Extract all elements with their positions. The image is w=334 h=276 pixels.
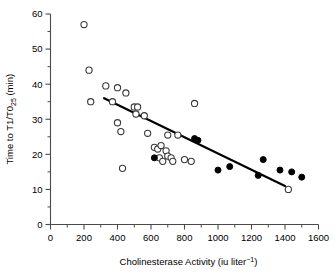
data-point-filled bbox=[215, 167, 221, 173]
x-axis-title: Cholinesterase Activity (iu liter−1) bbox=[120, 256, 258, 267]
data-point-open bbox=[188, 158, 194, 164]
data-point-open bbox=[145, 130, 151, 136]
data-point-open bbox=[165, 132, 171, 138]
data-point-open bbox=[119, 165, 125, 171]
data-point-open bbox=[181, 156, 187, 162]
x-tick-label: 1400 bbox=[274, 232, 295, 243]
data-point-filled bbox=[151, 155, 157, 161]
data-point-open bbox=[114, 85, 120, 91]
y-tick-label: 60 bbox=[32, 8, 43, 19]
y-axis-title: Time to T1/T025 (min) bbox=[4, 74, 17, 165]
scatter-plot: 0200400600800100012001400160001020304050… bbox=[0, 0, 334, 276]
data-point-open bbox=[109, 99, 115, 105]
data-point-open bbox=[285, 186, 291, 192]
data-point-open bbox=[133, 111, 139, 117]
data-point-open bbox=[86, 67, 92, 73]
data-point-open bbox=[81, 21, 87, 27]
data-point-open bbox=[160, 158, 166, 164]
figure-container: 0200400600800100012001400160001020304050… bbox=[0, 0, 334, 276]
x-tick-label: 800 bbox=[177, 232, 193, 243]
x-tick-label: 1600 bbox=[308, 232, 329, 243]
y-tick-label: 20 bbox=[32, 149, 43, 160]
data-point-filled bbox=[227, 164, 233, 170]
data-point-open bbox=[158, 142, 164, 148]
data-point-open bbox=[141, 113, 147, 119]
data-point-open bbox=[88, 99, 94, 105]
x-tick-label: 1000 bbox=[207, 232, 228, 243]
data-point-open bbox=[118, 128, 124, 134]
data-point-filled bbox=[255, 172, 261, 178]
y-tick-label: 40 bbox=[32, 79, 43, 90]
data-point-open bbox=[103, 83, 109, 89]
data-point-filled bbox=[195, 137, 201, 143]
data-point-open bbox=[175, 132, 181, 138]
data-point-open bbox=[135, 104, 141, 110]
x-tick-label: 1200 bbox=[241, 232, 262, 243]
data-point-open bbox=[114, 120, 120, 126]
data-point-open bbox=[191, 100, 197, 106]
data-point-open bbox=[123, 90, 129, 96]
y-tick-label: 10 bbox=[32, 184, 43, 195]
y-tick-label: 30 bbox=[32, 114, 43, 125]
data-point-filled bbox=[260, 157, 266, 163]
x-tick-label: 400 bbox=[110, 232, 126, 243]
x-tick-label: 200 bbox=[76, 232, 92, 243]
data-point-filled bbox=[277, 167, 283, 173]
y-tick-label: 50 bbox=[32, 43, 43, 54]
x-tick-label: 600 bbox=[143, 232, 159, 243]
data-point-open bbox=[170, 158, 176, 164]
data-point-filled bbox=[299, 174, 305, 180]
y-tick-label: 0 bbox=[37, 219, 42, 230]
data-point-filled bbox=[289, 169, 295, 175]
x-tick-label: 0 bbox=[48, 232, 53, 243]
